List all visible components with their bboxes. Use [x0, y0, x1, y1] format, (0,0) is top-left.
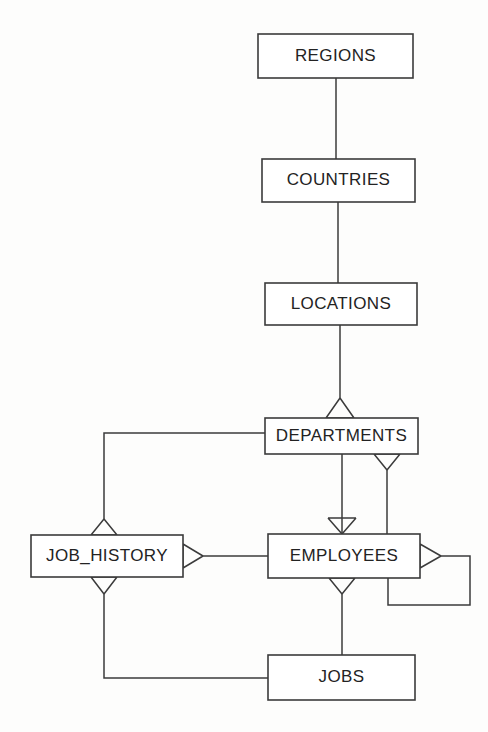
entity-jobs-label: JOBS: [318, 667, 364, 686]
link-departments-job-history: [104, 433, 265, 519]
crowfoot-departments-bottom: [374, 454, 400, 470]
entity-layer: REGIONS COUNTRIES LOCATIONS DEPARTMENTS …: [31, 34, 420, 700]
entity-locations[interactable]: LOCATIONS: [265, 283, 417, 325]
crowfoot-departments-top: [326, 398, 354, 418]
entity-job-history[interactable]: JOB_HISTORY: [31, 535, 183, 577]
entity-job-history-label: JOB_HISTORY: [46, 546, 168, 565]
entity-employees[interactable]: EMPLOYEES: [268, 534, 420, 578]
entity-employees-label: EMPLOYEES: [290, 546, 398, 565]
entity-departments-label: DEPARTMENTS: [276, 426, 407, 445]
entity-locations-label: LOCATIONS: [291, 294, 392, 313]
crowfoot-job-history-bottom: [91, 577, 117, 594]
er-diagram-canvas: REGIONS COUNTRIES LOCATIONS DEPARTMENTS …: [0, 0, 488, 732]
crowfoot-employees-bottom: [329, 578, 355, 594]
entity-departments[interactable]: DEPARTMENTS: [265, 418, 418, 454]
entity-countries-label: COUNTRIES: [287, 170, 391, 189]
entity-regions-label: REGIONS: [295, 46, 376, 65]
entity-countries[interactable]: COUNTRIES: [262, 159, 415, 202]
crowfoot-job-history-top: [91, 519, 117, 535]
er-diagram: REGIONS COUNTRIES LOCATIONS DEPARTMENTS …: [0, 0, 488, 732]
crowfoot-job-history-right: [183, 544, 203, 568]
crowfoot-employees-right: [420, 544, 441, 568]
entity-jobs[interactable]: JOBS: [268, 655, 415, 700]
entity-regions[interactable]: REGIONS: [258, 34, 413, 78]
link-jobs-job-history: [104, 594, 268, 678]
